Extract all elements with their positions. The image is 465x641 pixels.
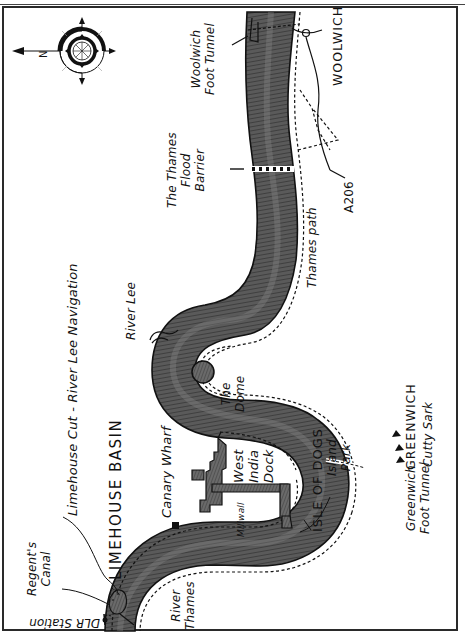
label-west-india-dock: West India Dock (232, 449, 277, 483)
label-thames-path: Thames path (306, 207, 320, 288)
canary-wharf-marker (172, 522, 179, 529)
label-canary-wharf: Canary Wharf (160, 426, 175, 518)
label-island-park: Island Park (326, 439, 354, 476)
compass-north-label: N (38, 50, 50, 58)
compass-rose-icon (12, 17, 116, 85)
label-woolwich-foot-tunnel: Woolwich Foot Tunnel (190, 23, 218, 95)
the-dome (192, 361, 214, 383)
label-a206: A206 (343, 181, 357, 213)
label-isle-of-dogs: ISLE OF DOGS (311, 428, 326, 532)
label-regents-canal: Regent's Canal (26, 542, 54, 596)
label-river-lee: River Lee (125, 282, 139, 340)
flood-barrier (230, 166, 294, 172)
label-limehouse-basin: LIMEHOUSE BASIN (108, 419, 125, 580)
label-millwall: Millwall (236, 502, 246, 537)
label-dlr-station: DLR Station (29, 616, 100, 630)
label-greenwich-foot-tunnel: Greenwich Foot Tunnel (405, 462, 433, 534)
label-the-dome: The Dome (220, 376, 248, 412)
river-thames (105, 12, 349, 631)
label-limehouse-cut: Limehouse Cut - River Lee Navigation (66, 263, 81, 516)
label-cutty-sark: Cutty Sark (422, 402, 436, 467)
label-thames-flood-barrier: The Thames Flood Barrier (166, 132, 207, 208)
label-greenwich: GREENWICH (404, 383, 418, 470)
label-woolwich: WOOLWICH (331, 6, 345, 86)
label-river-thames: River Thames (170, 581, 198, 630)
